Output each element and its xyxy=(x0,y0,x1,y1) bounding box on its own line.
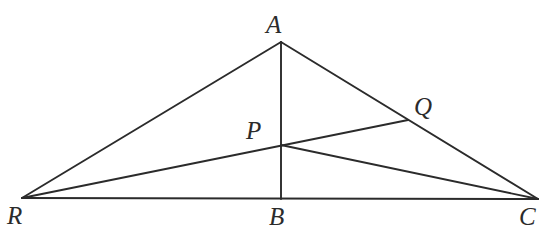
segment-side-AC xyxy=(281,42,538,199)
vertex-label-Q: Q xyxy=(414,94,432,119)
segment-side-RA xyxy=(22,42,281,198)
vertex-label-R: R xyxy=(7,203,22,228)
segment-cevian-PC xyxy=(281,145,538,199)
geometry-figure: A R C B P Q xyxy=(0,0,559,238)
vertex-label-B: B xyxy=(269,204,284,229)
vertex-label-C: C xyxy=(519,204,536,229)
vertex-label-P: P xyxy=(246,118,261,143)
segment-layer xyxy=(22,42,538,199)
vertex-label-A: A xyxy=(266,12,281,37)
segment-base-RC xyxy=(22,198,538,199)
